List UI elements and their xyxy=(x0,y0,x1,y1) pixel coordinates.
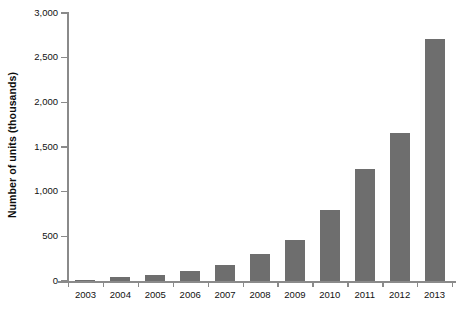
x-axis-tick xyxy=(277,282,278,287)
bar xyxy=(180,271,200,281)
x-axis-tick-label: 2006 xyxy=(173,289,208,300)
x-axis-tick xyxy=(68,282,69,287)
bar xyxy=(390,133,410,281)
bar xyxy=(425,39,445,281)
x-axis-tick-label: 2013 xyxy=(417,289,452,300)
y-axis-tick xyxy=(61,57,67,58)
y-axis-tick xyxy=(61,280,67,281)
x-axis-tick-label: 2009 xyxy=(277,289,312,300)
y-axis-tick-label: 1,000 xyxy=(0,185,58,196)
x-axis-tick-label: 2010 xyxy=(312,289,347,300)
bar xyxy=(110,277,130,281)
x-axis-tick-label: 2004 xyxy=(103,289,138,300)
y-axis-tick-label: 3,000 xyxy=(0,7,58,18)
x-axis-tick xyxy=(452,282,453,287)
y-axis-tick-label: 2,500 xyxy=(0,51,58,62)
bar xyxy=(320,210,340,281)
y-axis-tick xyxy=(61,191,67,192)
y-axis-tick xyxy=(61,12,67,13)
x-axis-tick-label: 2003 xyxy=(68,289,103,300)
bar xyxy=(285,240,305,281)
bar xyxy=(145,275,165,281)
x-axis-tick xyxy=(243,282,244,287)
y-axis-tick-label: 1,500 xyxy=(0,141,58,152)
x-axis-tick xyxy=(103,282,104,287)
bar xyxy=(75,280,95,282)
x-axis-tick-label: 2011 xyxy=(347,289,382,300)
bar xyxy=(215,265,235,281)
x-axis-tick xyxy=(417,282,418,287)
y-axis-tick xyxy=(61,102,67,103)
bar xyxy=(250,254,270,281)
x-axis-tick xyxy=(173,282,174,287)
x-axis-tick xyxy=(382,282,383,287)
x-axis-tick-label: 2008 xyxy=(243,289,278,300)
bar-chart-figure: Number of units (thousands) 05001,0001,5… xyxy=(0,0,462,314)
x-axis-tick-label: 2005 xyxy=(138,289,173,300)
x-axis-tick xyxy=(312,282,313,287)
x-axis-tick xyxy=(138,282,139,287)
y-axis-tick xyxy=(61,146,67,147)
x-axis-tick-label: 2012 xyxy=(382,289,417,300)
x-axis-tick xyxy=(208,282,209,287)
y-axis-tick xyxy=(61,236,67,237)
y-axis-tick-label: 2,000 xyxy=(0,96,58,107)
bars-layer xyxy=(68,13,452,281)
y-axis-tick-label: 0 xyxy=(0,275,58,286)
x-axis-tick xyxy=(347,282,348,287)
x-axis-tick-label: 2007 xyxy=(208,289,243,300)
bar xyxy=(355,169,375,281)
y-axis-tick-label: 500 xyxy=(0,230,58,241)
